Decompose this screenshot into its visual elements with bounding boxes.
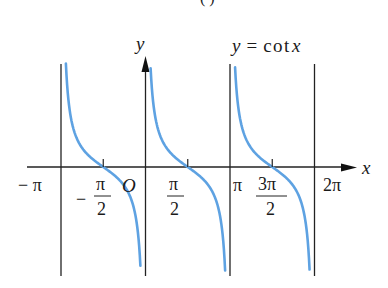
tick-label-numerator: π: [96, 174, 105, 194]
cot-branch: [151, 68, 226, 270]
function-label-x: x: [291, 35, 301, 56]
tick-label-two-pi: 2π: [323, 175, 341, 195]
tick-label-neg-half-pi: − π 2: [76, 174, 111, 219]
cot-branch: [235, 67, 310, 269]
y-axis-label: y: [134, 33, 145, 54]
tick-label-half-pi: π 2: [167, 174, 184, 219]
tick-label-denominator: 2: [170, 199, 179, 219]
tick-label-pi: π: [233, 175, 242, 195]
y-axis-arrow-icon: [142, 56, 150, 72]
x-axis-label: x: [361, 157, 371, 178]
function-label-eq: =: [246, 35, 257, 56]
tick-label-neg-pi: − π: [18, 175, 42, 195]
function-label: y=cotx: [230, 35, 301, 56]
tick-labels: − π − π 2 π 2 π 3π 2 2π: [18, 174, 341, 219]
tick-marks: [103, 159, 272, 167]
tick-label-three-half-pi: 3π 2: [256, 174, 287, 219]
tick-label-numerator: π: [169, 174, 178, 194]
tick-label-denominator: 2: [97, 199, 106, 219]
function-label-cot: cot: [263, 35, 291, 56]
figure-label-fragment: ( ): [200, 0, 215, 7]
origin-label: O: [122, 175, 136, 196]
cot-graph: ( ) y x O y=cotx − π − π 2 π 2 π 3π: [0, 0, 388, 288]
tick-label-denominator: 2: [266, 199, 275, 219]
tick-label-numerator: 3π: [258, 174, 276, 194]
tick-label-sign: −: [76, 189, 86, 209]
x-axis-arrow-icon: [341, 164, 357, 172]
function-label-y: y: [230, 35, 241, 56]
